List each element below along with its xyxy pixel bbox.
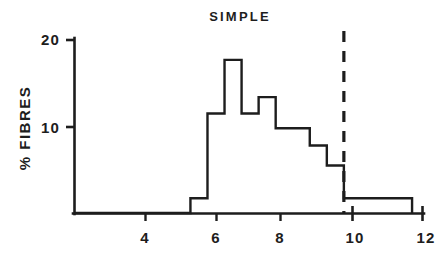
- x-tick-label-6: 6: [211, 229, 221, 246]
- x-tick-label-12: 12: [416, 229, 435, 246]
- y-axis-title: % FIBRES: [16, 86, 33, 171]
- histogram-figure: SIMPLE 20 10 % FIBRES 4 6 8 10 12: [0, 0, 447, 255]
- x-tick-label-10: 10: [345, 229, 364, 246]
- chart-title: SIMPLE: [209, 9, 271, 24]
- chart-canvas: SIMPLE 20 10 % FIBRES 4 6 8 10 12: [0, 0, 447, 255]
- x-tick-label-8: 8: [275, 229, 285, 246]
- x-tick-label-4: 4: [140, 229, 150, 246]
- y-tick-label-20: 20: [41, 31, 60, 48]
- y-tick-label-10: 10: [41, 119, 60, 136]
